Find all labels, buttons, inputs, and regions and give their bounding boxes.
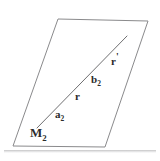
label-m2-subscript: 2: [42, 133, 46, 143]
geometry-diagram: [0, 0, 160, 161]
label-m2: M2: [30, 126, 47, 142]
label-r-prime-mark: ': [116, 51, 119, 62]
diagonal-line: [37, 36, 127, 128]
label-r: r: [75, 91, 80, 102]
label-a2: a2: [55, 109, 64, 123]
label-r-prime: r': [111, 52, 119, 67]
label-b2-subscript: 2: [97, 79, 101, 88]
label-b2: b2: [91, 74, 101, 88]
figure-canvas: M2 a2 r b2 r': [0, 0, 160, 161]
label-r-base: r: [75, 90, 80, 102]
label-a2-subscript: 2: [61, 114, 65, 123]
label-m2-base: M: [30, 125, 42, 140]
